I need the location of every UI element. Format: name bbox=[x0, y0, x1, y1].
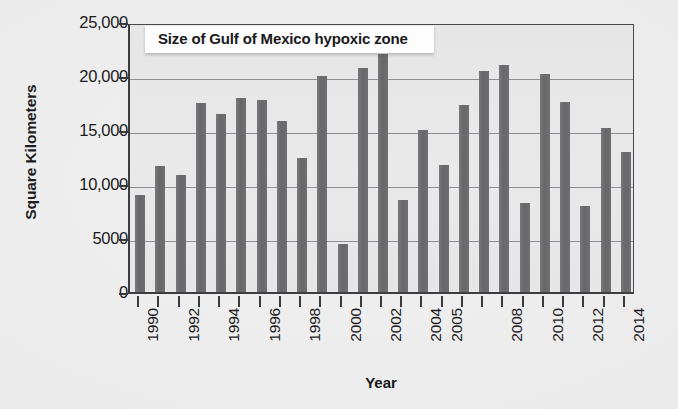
x-axis-tick-mark bbox=[279, 296, 281, 307]
y-axis-tick-labels: 0500010,00015,00020,00025,000 bbox=[38, 0, 128, 409]
y-axis-tick-mark bbox=[119, 239, 128, 241]
x-axis-tick-marks bbox=[128, 296, 634, 308]
x-axis-tick-mark bbox=[582, 296, 584, 307]
x-axis-tick-mark bbox=[542, 296, 544, 307]
bar-chart-figure: Square Kilometers 0500010,00015,00020,00… bbox=[0, 0, 678, 409]
bar bbox=[560, 102, 570, 292]
x-axis-tick-label: 1992 bbox=[185, 308, 203, 342]
x-axis-tick-mark bbox=[501, 296, 503, 307]
bar bbox=[155, 166, 165, 292]
bar bbox=[439, 165, 449, 292]
bar bbox=[580, 206, 590, 292]
bar bbox=[378, 54, 388, 292]
x-axis-tick-mark bbox=[562, 296, 564, 307]
x-axis-tick-label: 2008 bbox=[508, 308, 526, 342]
x-axis-tick-mark bbox=[137, 296, 139, 307]
x-axis-tick-mark bbox=[340, 296, 342, 307]
x-axis-tick-mark bbox=[259, 296, 261, 307]
bar bbox=[196, 103, 206, 292]
bar bbox=[621, 152, 631, 292]
bar bbox=[398, 200, 408, 292]
bar bbox=[459, 105, 469, 292]
bar bbox=[297, 158, 307, 292]
y-axis-tick-label: 25,000 bbox=[42, 13, 128, 32]
bar bbox=[418, 130, 428, 292]
y-axis-tick-mark bbox=[119, 131, 128, 133]
bar bbox=[338, 244, 348, 292]
x-axis-tick-label: 2002 bbox=[387, 308, 405, 342]
x-axis-tick-label: 2004 bbox=[427, 308, 445, 342]
x-axis-tick-mark bbox=[441, 296, 443, 307]
plot-area bbox=[128, 24, 634, 294]
x-axis-tick-mark bbox=[198, 296, 200, 307]
bar bbox=[257, 100, 267, 292]
x-axis-tick-label: 1994 bbox=[225, 308, 243, 342]
x-axis-tick-mark bbox=[238, 296, 240, 307]
x-axis-tick-mark bbox=[178, 296, 180, 307]
x-axis-tick-label: 2005 bbox=[448, 308, 466, 342]
x-axis-tick-mark bbox=[360, 296, 362, 307]
x-axis-tick-mark bbox=[623, 296, 625, 307]
y-axis-tick-label: 5000 bbox=[42, 229, 128, 248]
x-axis-tick-label: 2000 bbox=[347, 308, 365, 342]
bar bbox=[499, 65, 509, 292]
bar-series bbox=[130, 25, 633, 292]
bar bbox=[520, 203, 530, 292]
bar bbox=[236, 98, 246, 292]
bar bbox=[135, 195, 145, 292]
x-axis-title-text: Year bbox=[365, 374, 397, 391]
x-axis-tick-label: 1990 bbox=[144, 308, 162, 342]
bar bbox=[277, 121, 287, 292]
x-axis-tick-mark bbox=[299, 296, 301, 307]
chart-title-box: Size of Gulf of Mexico hypoxic zone bbox=[145, 25, 434, 53]
y-axis-tick-label: 0 bbox=[42, 283, 128, 302]
x-axis-tick-mark bbox=[157, 296, 159, 307]
y-axis-tick-mark bbox=[119, 77, 128, 79]
y-axis-tick-mark bbox=[119, 185, 128, 187]
x-axis-tick-label: 1996 bbox=[266, 308, 284, 342]
x-axis-tick-label: 2010 bbox=[549, 308, 567, 342]
bar bbox=[216, 114, 226, 292]
x-axis-tick-mark bbox=[603, 296, 605, 307]
bar bbox=[176, 175, 186, 292]
y-axis-tick-mark bbox=[119, 293, 128, 295]
x-axis-tick-mark bbox=[400, 296, 402, 307]
chart-title-text: Size of Gulf of Mexico hypoxic zone bbox=[158, 30, 408, 47]
bar bbox=[317, 76, 327, 292]
x-axis-tick-mark bbox=[319, 296, 321, 307]
bar bbox=[601, 128, 611, 292]
x-axis-tick-label: 2014 bbox=[630, 308, 648, 342]
x-axis-tick-labels: 1990199219941996199820002002200420052008… bbox=[128, 308, 634, 368]
x-axis-tick-mark bbox=[420, 296, 422, 307]
x-axis-tick-mark bbox=[218, 296, 220, 307]
x-axis-tick-mark bbox=[380, 296, 382, 307]
x-axis-title: Year bbox=[128, 374, 634, 391]
bar bbox=[479, 71, 489, 292]
y-axis-tick-mark bbox=[119, 23, 128, 25]
x-axis-tick-mark bbox=[461, 296, 463, 307]
x-axis-tick-label: 1998 bbox=[306, 308, 324, 342]
x-axis-tick-mark bbox=[481, 296, 483, 307]
y-axis-tick-label: 15,000 bbox=[42, 121, 128, 140]
y-axis-tick-label: 10,000 bbox=[42, 175, 128, 194]
x-axis-tick-label: 2012 bbox=[589, 308, 607, 342]
x-axis-tick-mark bbox=[522, 296, 524, 307]
y-axis-tick-label: 20,000 bbox=[42, 67, 128, 86]
scanned-page-background: Square Kilometers 0500010,00015,00020,00… bbox=[0, 0, 678, 409]
bar bbox=[540, 74, 550, 292]
bar bbox=[358, 68, 368, 292]
